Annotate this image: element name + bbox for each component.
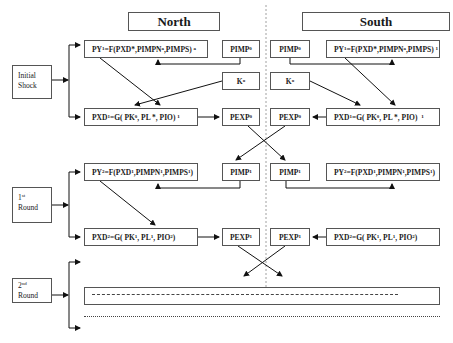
south-pimp1: PIMP1 (270, 163, 310, 181)
second-round-label: 2nd Round (12, 278, 52, 303)
south-py1-equation: PY1=F(PXD*,PIMPNa,PIMPS) 1 (326, 40, 440, 58)
south-pimp0: PIMP0 (270, 40, 310, 58)
south-pxd2-equation: PXD2=G( PK1, PL1, PIO2) (326, 228, 440, 246)
initial-shock-label: Initial Shock (12, 65, 52, 99)
second-round-dashed-line (92, 294, 398, 295)
continuation-dotted-line (84, 316, 440, 317)
north-pimp0: PIMP0 (222, 40, 260, 58)
initial-text: Initial (18, 71, 36, 80)
round-suffix: nd (22, 281, 27, 286)
south-pxd1-equation: PXD1=G( PK0, PL *, PIO) 1 (326, 108, 440, 126)
north-pexp1: PEXP1 (222, 228, 260, 246)
south-py2-equation: PY2=F(PXD1,PIMPN1,PIMPS1) (326, 163, 440, 181)
shock-text: Shock (18, 81, 37, 90)
round-word: Round (18, 203, 38, 212)
north-pimp1: PIMP1 (222, 163, 260, 181)
north-pxd1-equation: PXD1=G( PK0, PL *, PIO) 1 (84, 108, 198, 126)
north-pexp0: PEXP0 (222, 108, 260, 126)
south-k0: Ko (270, 72, 310, 90)
round-word: Round (18, 291, 38, 300)
north-py1-equation: PY1=F(PXD*,PIMPNa ,PIMPS) a (84, 40, 208, 58)
north-k0: Ko (222, 72, 260, 90)
south-header: South (302, 12, 450, 31)
north-header: North (128, 12, 220, 31)
north-pxd2-equation: PXD2=G( PK1, PL1, PIO2) (84, 228, 198, 246)
first-round-label: 1st Round (12, 187, 52, 223)
south-pexp1: PEXP1 (270, 228, 310, 246)
second-round-box (84, 287, 440, 305)
round-suffix: st (22, 193, 25, 198)
north-py2-equation: PY2=F(PXD1,PIMPN1,PIMPS1) (84, 163, 198, 181)
south-pexp0: PEXP0 (270, 108, 310, 126)
